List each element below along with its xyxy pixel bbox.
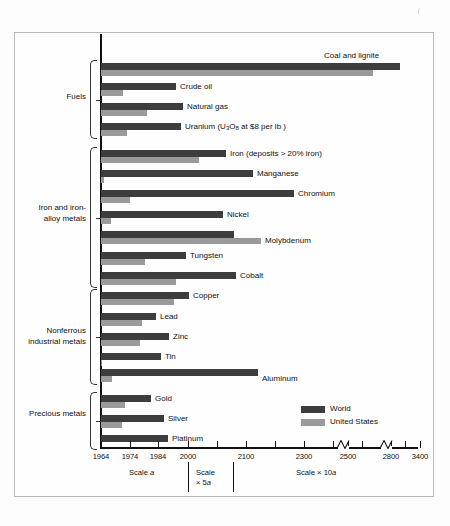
x-axis-tick-label: 1964 (93, 452, 110, 461)
figure-canvas: Coal and ligniteCrude oilNatural gasUran… (0, 0, 450, 526)
legend-label-world: World (330, 404, 351, 413)
x-axis-tick (333, 441, 334, 448)
bar-category-label: Iron (deposits > 20% iron) (230, 149, 322, 159)
bar-category-label: Cobalt (240, 271, 263, 281)
bar-united-states (101, 177, 104, 183)
bar-category-label: Nickel (227, 210, 249, 220)
x-axis-tick-label: 1984 (150, 452, 167, 461)
x-axis-tick-label: 1974 (122, 452, 139, 461)
bar-united-states (101, 130, 127, 136)
bar-united-states (101, 218, 111, 224)
bar-category-label: Lead (160, 312, 178, 322)
x-axis-tick-label: 3400 (412, 452, 429, 461)
x-axis-tick (420, 441, 421, 448)
bar-category-label: Tin (165, 352, 176, 362)
scale-band-divider-right (233, 462, 234, 492)
x-axis-tick (405, 441, 406, 448)
legend-label-united-states: United States (330, 417, 378, 426)
bar-united-states (101, 402, 125, 408)
bar-category-label: Zinc (173, 332, 188, 342)
group-label-nonferrous-industrial-metals: Nonferrous industrial metals (8, 326, 86, 347)
group-bracket-nonferrous-industrial-metals (90, 289, 97, 385)
legend-swatch-world (301, 406, 325, 413)
x-axis-tick (246, 441, 247, 448)
group-label-iron-and-iron-alloy-metals: Iron and iron- alloy metals (14, 203, 86, 224)
bar-category-label: Copper (193, 291, 219, 301)
group-label-precious-metals: Precious metals (6, 409, 86, 420)
axis-break-left (337, 440, 350, 449)
bar-world (101, 252, 186, 259)
bar-united-states (101, 259, 145, 265)
x-axis-tick-label: 2500 (340, 452, 357, 461)
x-axis-tick (275, 441, 276, 448)
bar-category-label: Crude oil (180, 82, 212, 92)
x-axis-tick-label: 2000 (180, 452, 197, 461)
group-bracket-fuels (90, 60, 97, 139)
group-bracket-precious-metals (90, 392, 97, 450)
x-axis-tick (130, 441, 131, 448)
bar-united-states (101, 320, 142, 326)
x-axis-tick (304, 441, 305, 448)
bar-united-states (101, 422, 122, 428)
bar-world (101, 190, 294, 197)
x-axis-tick-label: 2100 (238, 452, 255, 461)
bar-united-states (101, 340, 140, 346)
bar-united-states (101, 299, 174, 305)
bar-world (101, 369, 258, 376)
bar-category-label: Molybdenum (265, 236, 311, 246)
bar-united-states (101, 90, 123, 96)
bar-category-label: Coal and lignite (324, 51, 379, 61)
bar-category-label: Uranium (U3O8 at $8 per lb ) (185, 122, 286, 133)
bar-world (101, 292, 189, 299)
scale-band-divider-left (188, 462, 189, 492)
bar-category-label: Gold (155, 394, 172, 404)
bar-united-states (101, 110, 147, 116)
scale-band-10a-label: Scale × 10a (296, 468, 336, 478)
bar-category-label: Silver (168, 414, 188, 424)
x-axis-tick-label: 2300 (296, 452, 313, 461)
x-axis-tick (188, 441, 189, 448)
bar-united-states (101, 279, 176, 285)
group-bracket-iron-and-iron-alloy-metals (90, 147, 97, 288)
bar-category-label: Manganese (257, 169, 299, 179)
bar-world (101, 83, 176, 90)
x-axis-tick (158, 441, 159, 448)
bar-world (101, 231, 234, 238)
bar-world (101, 170, 253, 177)
bar-united-states (101, 197, 130, 203)
bar-world (101, 63, 400, 70)
bar-united-states (101, 360, 102, 366)
bar-world (101, 395, 151, 402)
bar-world (101, 333, 169, 340)
bar-world (101, 103, 183, 110)
bar-world (101, 313, 156, 320)
bar-world (101, 415, 164, 422)
bar-united-states (101, 376, 112, 382)
x-axis-tick (362, 441, 363, 448)
bar-united-states (101, 238, 261, 244)
bar-world (101, 353, 161, 360)
group-label-fuels: Fuels (24, 92, 86, 103)
bar-world (101, 150, 226, 157)
legend-swatch-united-states (301, 419, 325, 426)
bar-category-label: Tungsten (190, 251, 223, 261)
bar-category-label: Chromium (298, 189, 335, 199)
x-axis-tick (101, 441, 102, 448)
scale-band-a-label: Scale a (129, 468, 154, 478)
axis-break-right (380, 440, 393, 449)
bar-category-label: Aluminum (262, 374, 298, 384)
x-axis-tick (217, 441, 218, 448)
chart-plot-area: Coal and ligniteCrude oilNatural gasUran… (0, 0, 450, 526)
bar-category-label: Natural gas (187, 102, 228, 112)
x-axis-line (100, 447, 418, 449)
bar-world (101, 272, 236, 279)
bar-united-states (101, 70, 373, 76)
bar-world (101, 123, 181, 130)
bar-united-states (101, 157, 199, 163)
x-axis-tick-label: 2800 (383, 452, 400, 461)
scale-band-5a-label: Scale× 5a (196, 468, 215, 488)
bar-world (101, 211, 223, 218)
